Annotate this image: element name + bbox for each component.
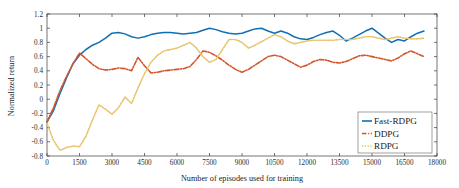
y-tick-label: 1 [39,25,43,33]
x-tick-label: 16500 [396,159,414,167]
y-tick-label: 0 [39,96,43,104]
x-axis-title: Number of episodes used for training [181,174,303,183]
x-tick-label: 9000 [235,159,250,167]
x-tick-label: 13500 [331,159,349,167]
x-tick-label: 4500 [137,159,152,167]
y-tick-labels: -0.8-0.6-0.4-0.200.20.40.60.811.2 [32,11,44,161]
x-tick-label: 1500 [72,159,87,167]
legend-label-ddpg[interactable]: DDPG [374,129,399,139]
y-tick-label: -0.2 [32,110,44,118]
y-tick-label: -0.6 [32,138,44,146]
x-tick-label: 0 [45,159,49,167]
legend-label-rdpg[interactable]: RDPG [374,141,399,151]
line-chart: 0150030004500600075009000105001200013500… [0,0,459,188]
y-axis-title: Normalized return [7,56,16,116]
chart-figure: 0150030004500600075009000105001200013500… [0,0,459,188]
x-tick-label: 6000 [170,159,185,167]
x-tick-labels: 0150030004500600075009000105001200013500… [45,159,446,167]
x-tick-label: 18000 [428,159,446,167]
y-tick-label: 1.2 [34,11,43,19]
x-tick-label: 12000 [298,159,316,167]
legend-label-fast-rdpg[interactable]: Fast-RDPG [374,116,417,126]
x-tick-label: 10500 [266,159,284,167]
y-tick-label: 0.4 [34,67,43,75]
x-tick-label: 7500 [202,159,217,167]
y-tick-label: 0.8 [34,39,43,47]
chart-legend: Fast-RDPGDDPGRDPG [358,112,432,153]
x-tick-label: 3000 [105,159,120,167]
y-tick-label: -0.4 [32,124,44,132]
y-tick-label: -0.8 [32,153,44,161]
x-tick-label: 15000 [363,159,381,167]
series-line-ddpg [47,51,424,122]
y-tick-label: 0.2 [34,82,43,90]
y-tick-label: 0.6 [34,53,43,61]
